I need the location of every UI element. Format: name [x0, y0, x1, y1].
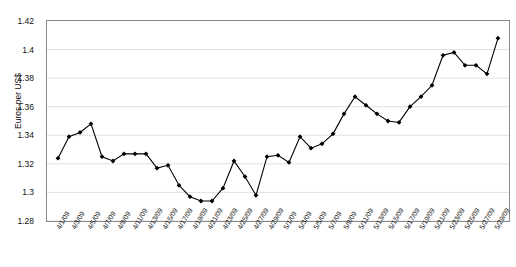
gridlines	[47, 50, 509, 221]
data-point	[100, 154, 105, 159]
y-tick-label: 1.32	[17, 159, 34, 169]
y-axis-tick-labels: 1.421.41.381.361.341.321.31.28	[0, 0, 34, 267]
y-tick-label: 1.4	[22, 45, 34, 55]
y-tick-label: 1.36	[17, 102, 34, 112]
series-markers	[56, 36, 501, 204]
data-point	[254, 193, 259, 198]
plot-area	[46, 20, 510, 222]
y-tick-label: 1.38	[17, 73, 34, 83]
data-point	[496, 36, 501, 41]
line-chart: Euros per US$ 1.421.41.381.361.341.321.3…	[0, 0, 516, 267]
data-point	[56, 156, 61, 161]
data-point	[441, 53, 446, 58]
y-tick-label: 1.34	[17, 130, 34, 140]
series-canvas	[47, 21, 509, 221]
y-tick-label: 1.42	[17, 16, 34, 26]
y-tick-label: 1.3	[22, 187, 34, 197]
data-point	[199, 199, 204, 204]
series-line	[58, 38, 498, 201]
y-tick-label: 1.28	[17, 216, 34, 226]
chart-title	[0, 0, 516, 4]
data-point	[265, 154, 270, 159]
data-point	[133, 151, 138, 156]
